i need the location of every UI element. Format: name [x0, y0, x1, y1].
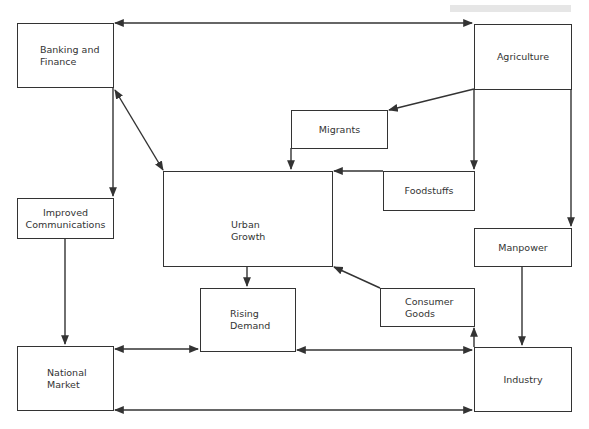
- node-label: Rising Demand: [230, 308, 270, 332]
- node-label: Banking and Finance: [40, 44, 99, 68]
- node-manpower: Manpower: [474, 228, 572, 267]
- node-migrants: Migrants: [291, 110, 388, 149]
- node-consumer-goods: Consumer Goods: [380, 288, 475, 327]
- edge-consumer-urban: [334, 267, 380, 288]
- node-national-market: National Market: [17, 346, 114, 411]
- node-label: Migrants: [319, 124, 360, 136]
- node-label: National Market: [47, 367, 87, 391]
- node-improved-communications: Improved Communications: [17, 198, 114, 239]
- node-label: Improved Communications: [26, 207, 106, 231]
- node-label: Consumer Goods: [405, 296, 453, 320]
- edge-agriculture-migrants: [389, 89, 474, 110]
- node-industry: Industry: [474, 347, 572, 412]
- node-urban-growth: Urban Growth: [163, 171, 333, 267]
- node-banking-finance: Banking and Finance: [17, 23, 114, 88]
- node-rising-demand: Rising Demand: [200, 288, 296, 352]
- node-label: Manpower: [498, 242, 547, 254]
- node-foodstuffs: Foodstuffs: [383, 171, 475, 211]
- node-label: Urban Growth: [231, 219, 265, 243]
- node-label: Agriculture: [497, 51, 549, 63]
- node-label: Foodstuffs: [405, 185, 454, 197]
- node-agriculture: Agriculture: [474, 24, 572, 90]
- edge-banking-urban: [115, 90, 163, 170]
- node-label: Industry: [503, 374, 542, 386]
